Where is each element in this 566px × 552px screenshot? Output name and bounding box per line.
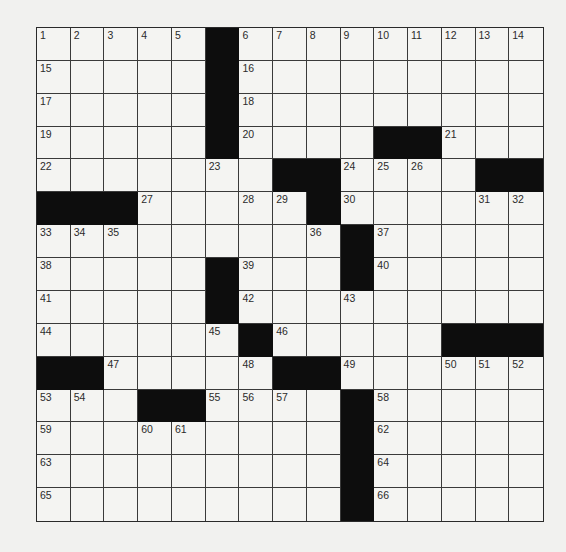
grid-cell[interactable]: 59: [37, 422, 71, 455]
grid-cell[interactable]: [442, 488, 476, 521]
grid-cell[interactable]: 6: [239, 28, 273, 61]
grid-cell[interactable]: [408, 225, 442, 258]
grid-cell[interactable]: [138, 94, 172, 127]
grid-cell[interactable]: [476, 390, 510, 423]
grid-cell[interactable]: [273, 258, 307, 291]
grid-cell[interactable]: 34: [71, 225, 105, 258]
grid-cell[interactable]: 49: [341, 357, 375, 390]
grid-cell[interactable]: [172, 94, 206, 127]
grid-cell[interactable]: [239, 159, 273, 192]
grid-cell[interactable]: [273, 488, 307, 521]
grid-cell[interactable]: [239, 455, 273, 488]
grid-cell[interactable]: 31: [476, 192, 510, 225]
grid-cell[interactable]: [509, 225, 543, 258]
grid-cell[interactable]: [476, 94, 510, 127]
grid-cell[interactable]: [374, 192, 408, 225]
grid-cell[interactable]: 56: [239, 390, 273, 423]
grid-cell[interactable]: [442, 61, 476, 94]
grid-cell[interactable]: [307, 94, 341, 127]
grid-cell[interactable]: [509, 291, 543, 324]
grid-cell[interactable]: 45: [206, 324, 240, 357]
grid-cell[interactable]: [476, 455, 510, 488]
grid-cell[interactable]: 32: [509, 192, 543, 225]
grid-cell[interactable]: 37: [374, 225, 408, 258]
grid-cell[interactable]: [71, 258, 105, 291]
grid-cell[interactable]: [172, 225, 206, 258]
grid-cell[interactable]: 48: [239, 357, 273, 390]
grid-cell[interactable]: [172, 455, 206, 488]
grid-cell[interactable]: [71, 488, 105, 521]
grid-cell[interactable]: [374, 357, 408, 390]
grid-cell[interactable]: 63: [37, 455, 71, 488]
grid-cell[interactable]: [408, 422, 442, 455]
grid-cell[interactable]: [442, 159, 476, 192]
grid-cell[interactable]: 46: [273, 324, 307, 357]
grid-cell[interactable]: 8: [307, 28, 341, 61]
grid-cell[interactable]: [307, 291, 341, 324]
grid-cell[interactable]: [341, 324, 375, 357]
grid-cell[interactable]: [341, 127, 375, 160]
grid-cell[interactable]: 51: [476, 357, 510, 390]
grid-cell[interactable]: 61: [172, 422, 206, 455]
grid-cell[interactable]: [509, 61, 543, 94]
grid-cell[interactable]: [71, 61, 105, 94]
grid-cell[interactable]: 17: [37, 94, 71, 127]
grid-cell[interactable]: [138, 455, 172, 488]
grid-cell[interactable]: [408, 357, 442, 390]
grid-cell[interactable]: [172, 61, 206, 94]
grid-cell[interactable]: 21: [442, 127, 476, 160]
grid-cell[interactable]: 62: [374, 422, 408, 455]
grid-cell[interactable]: [138, 127, 172, 160]
grid-cell[interactable]: 1: [37, 28, 71, 61]
grid-cell[interactable]: [307, 390, 341, 423]
grid-cell[interactable]: [442, 258, 476, 291]
grid-cell[interactable]: [104, 61, 138, 94]
grid-cell[interactable]: [172, 159, 206, 192]
grid-cell[interactable]: 55: [206, 390, 240, 423]
grid-cell[interactable]: [138, 225, 172, 258]
grid-cell[interactable]: [104, 94, 138, 127]
grid-cell[interactable]: [104, 455, 138, 488]
grid-cell[interactable]: [172, 127, 206, 160]
grid-cell[interactable]: [172, 291, 206, 324]
grid-cell[interactable]: 64: [374, 455, 408, 488]
grid-cell[interactable]: [172, 192, 206, 225]
grid-cell[interactable]: 39: [239, 258, 273, 291]
grid-cell[interactable]: [476, 225, 510, 258]
grid-cell[interactable]: [374, 61, 408, 94]
grid-cell[interactable]: [442, 192, 476, 225]
grid-cell[interactable]: [239, 422, 273, 455]
grid-cell[interactable]: [273, 422, 307, 455]
grid-cell[interactable]: 38: [37, 258, 71, 291]
grid-cell[interactable]: [374, 94, 408, 127]
grid-cell[interactable]: 27: [138, 192, 172, 225]
grid-cell[interactable]: [509, 390, 543, 423]
grid-cell[interactable]: [442, 422, 476, 455]
grid-cell[interactable]: 20: [239, 127, 273, 160]
grid-cell[interactable]: [307, 488, 341, 521]
grid-cell[interactable]: [476, 422, 510, 455]
grid-cell[interactable]: 9: [341, 28, 375, 61]
grid-cell[interactable]: [71, 422, 105, 455]
grid-cell[interactable]: [104, 127, 138, 160]
grid-cell[interactable]: [172, 258, 206, 291]
grid-cell[interactable]: 54: [71, 390, 105, 423]
grid-cell[interactable]: 7: [273, 28, 307, 61]
grid-cell[interactable]: 36: [307, 225, 341, 258]
grid-cell[interactable]: [442, 390, 476, 423]
grid-cell[interactable]: 52: [509, 357, 543, 390]
grid-cell[interactable]: [408, 94, 442, 127]
grid-cell[interactable]: 16: [239, 61, 273, 94]
grid-cell[interactable]: 66: [374, 488, 408, 521]
grid-cell[interactable]: [138, 324, 172, 357]
grid-cell[interactable]: 35: [104, 225, 138, 258]
grid-cell[interactable]: [408, 192, 442, 225]
grid-cell[interactable]: [138, 61, 172, 94]
grid-cell[interactable]: [104, 159, 138, 192]
grid-cell[interactable]: 12: [442, 28, 476, 61]
grid-cell[interactable]: [442, 455, 476, 488]
grid-cell[interactable]: [71, 127, 105, 160]
grid-cell[interactable]: [408, 258, 442, 291]
grid-cell[interactable]: [104, 390, 138, 423]
grid-cell[interactable]: 44: [37, 324, 71, 357]
